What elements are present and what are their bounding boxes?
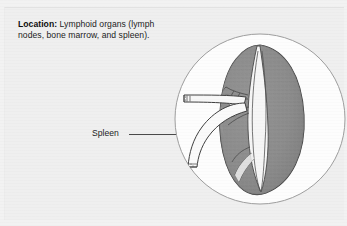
figure-caption: Location: Lymphoid organs (lymph nodes, … bbox=[18, 19, 170, 42]
caption-lead-label: Location: bbox=[18, 19, 57, 29]
figure-panel: Location: Lymphoid organs (lymph nodes, … bbox=[0, 0, 347, 226]
callout-label-spleen: Spleen bbox=[92, 128, 119, 138]
spleen-inset-circle bbox=[174, 33, 346, 205]
